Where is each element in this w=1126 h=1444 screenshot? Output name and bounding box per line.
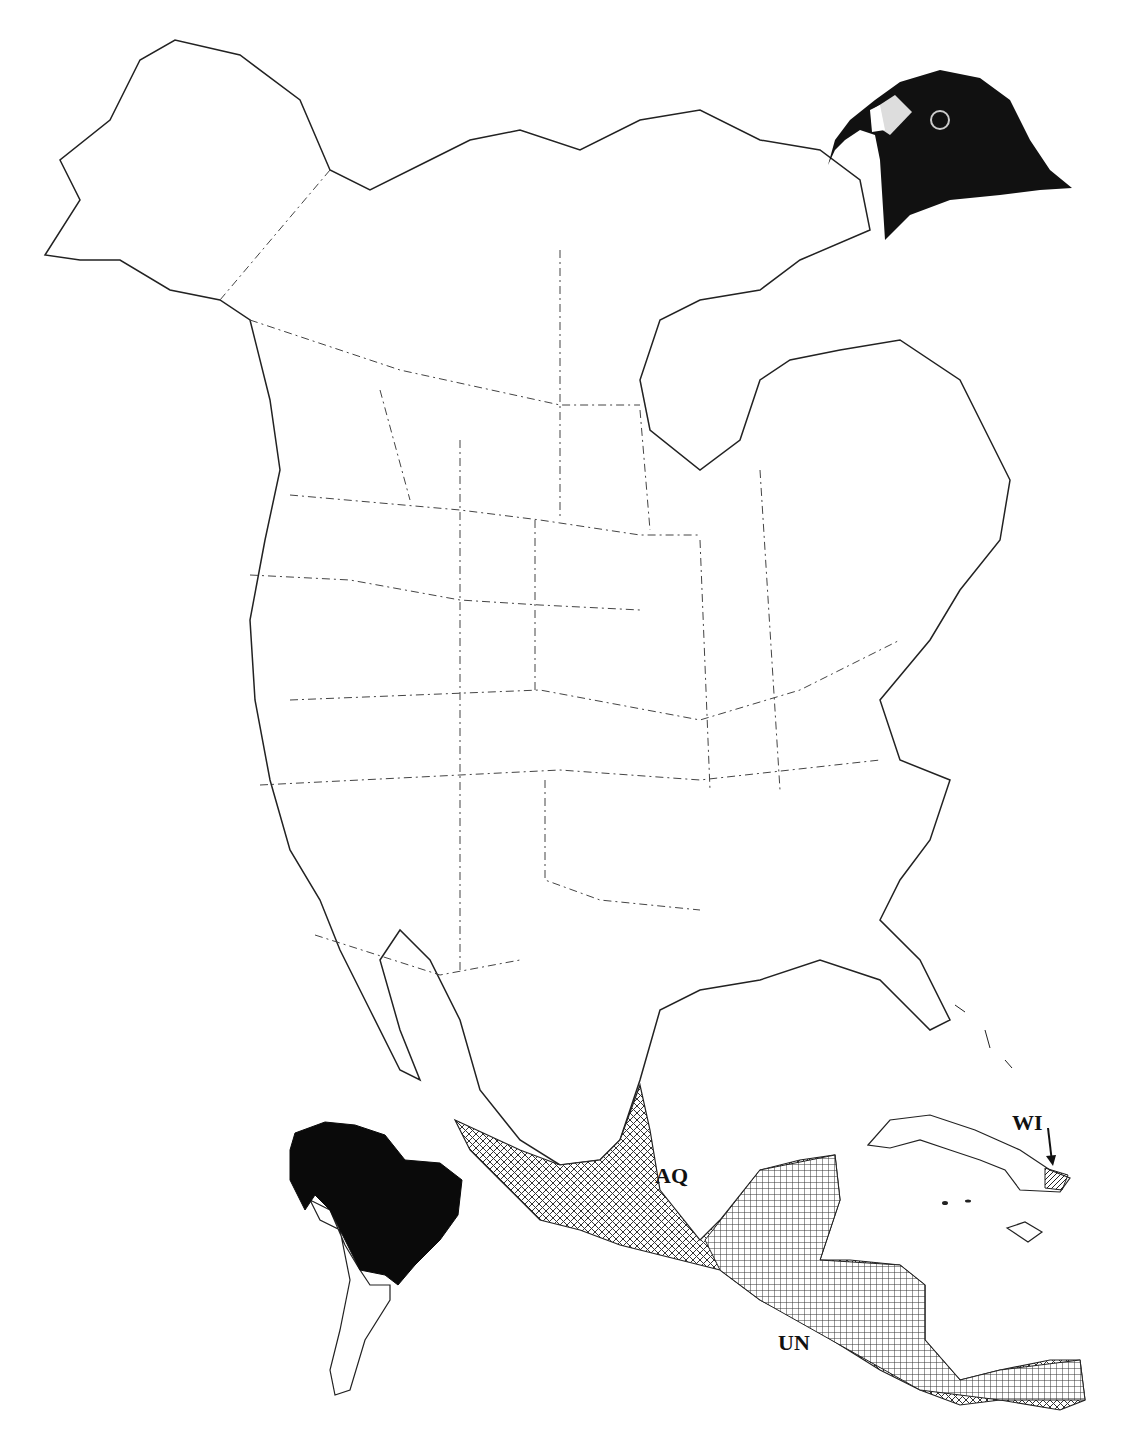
bahamas-islands (955, 1005, 1012, 1068)
hawk-head-illustration (828, 70, 1072, 240)
range-map (0, 0, 1126, 1444)
jamaica-outline (1007, 1222, 1042, 1242)
label-wi: WI (1012, 1110, 1043, 1136)
political-borders (220, 170, 900, 975)
label-un: UN (778, 1330, 810, 1356)
north-america-outline (45, 40, 1010, 1165)
range-eastern-cuba (1045, 1168, 1068, 1190)
label-aq: AQ (655, 1163, 688, 1189)
range-central-america-grid (705, 1155, 1085, 1400)
